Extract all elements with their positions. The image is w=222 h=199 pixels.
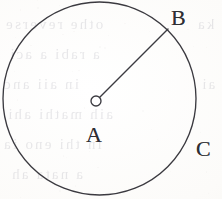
figure-canvas: othe reversea rabi a aciin aii ancaih ma… xyxy=(0,0,222,199)
circle-diagram-svg xyxy=(0,0,222,199)
radius-line-segment xyxy=(96,29,168,101)
center-point-marker xyxy=(91,96,101,106)
point-label-c: C xyxy=(196,138,211,160)
point-label-a: A xyxy=(86,124,102,146)
point-label-b: B xyxy=(171,7,186,29)
